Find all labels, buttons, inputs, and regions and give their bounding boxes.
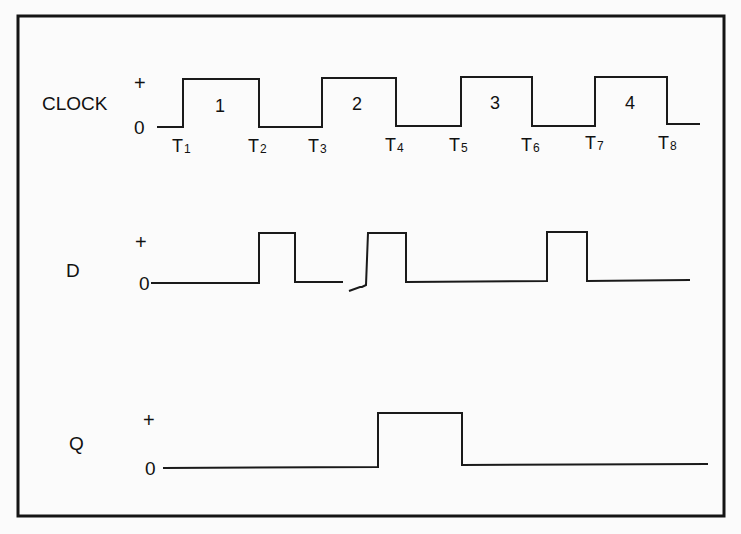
time-marker: T 2	[248, 136, 267, 156]
clock-pulse-label: 2	[352, 94, 362, 114]
time-marker-subscript: 6	[533, 141, 540, 155]
q-high-label: +	[143, 409, 155, 431]
time-marker-base: T	[248, 136, 259, 156]
clock-pulse-label: 3	[490, 93, 500, 113]
q-label: Q	[69, 433, 84, 454]
time-markers: T 1 T 2 T 3 T 4 T 5 T 6 T 7 T 8	[172, 133, 677, 156]
time-marker-base: T	[385, 135, 396, 155]
time-marker: T 6	[521, 135, 540, 155]
clock-high-label: +	[134, 72, 146, 94]
time-marker: T 5	[449, 135, 468, 155]
time-marker-subscript: 5	[461, 141, 468, 155]
time-marker-base: T	[521, 135, 532, 155]
clock-waveform	[157, 77, 700, 127]
clock-pulse-label: 1	[215, 96, 225, 116]
time-marker-subscript: 4	[397, 141, 404, 155]
d-label: D	[66, 260, 80, 281]
time-marker: T 4	[385, 135, 404, 155]
time-marker-subscript: 7	[597, 139, 604, 153]
time-marker-subscript: 2	[260, 142, 267, 156]
diagram-frame	[18, 16, 724, 516]
d-low-label: 0	[139, 273, 150, 294]
time-marker: T 7	[585, 133, 604, 153]
time-marker-base: T	[308, 136, 319, 156]
time-marker: T 3	[308, 136, 327, 156]
clock-low-label: 0	[134, 117, 145, 138]
clock-label: CLOCK	[42, 93, 108, 114]
d-waveform	[349, 232, 690, 291]
d-signal: D + 0	[66, 231, 690, 294]
d-high-label: +	[135, 231, 147, 253]
time-marker-base: T	[172, 136, 183, 156]
clock-signal: CLOCK + 0 1 2 3 4	[42, 72, 700, 138]
q-signal: Q + 0	[69, 409, 708, 479]
time-marker-base: T	[658, 133, 669, 153]
time-marker-subscript: 8	[670, 139, 677, 153]
time-marker: T 8	[658, 133, 677, 153]
d-waveform	[151, 233, 343, 283]
q-low-label: 0	[145, 458, 156, 479]
q-waveform	[163, 413, 708, 468]
timing-diagram: CLOCK + 0 1 2 3 4 T 1 T 2 T 3 T 4 T 5 T	[0, 0, 741, 534]
time-marker-base: T	[449, 135, 460, 155]
time-marker: T 1	[172, 136, 191, 156]
time-marker-subscript: 3	[320, 142, 327, 156]
clock-pulse-label: 4	[625, 93, 635, 113]
time-marker-base: T	[585, 133, 596, 153]
time-marker-subscript: 1	[184, 142, 191, 156]
